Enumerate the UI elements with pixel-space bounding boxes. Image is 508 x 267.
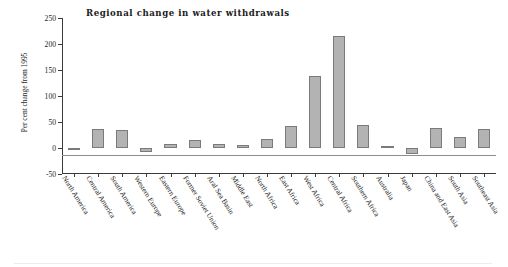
bar [140,148,152,152]
chart-title: Regional change in water withdrawals [86,8,290,18]
y-tick-mark [58,122,62,123]
y-tick-label: 100 [45,92,56,101]
y-axis-title: Per cent change from 1995 [20,18,29,168]
bar [237,145,249,148]
x-tick-label: Middle East [229,174,255,209]
bar [261,139,273,148]
bar [478,129,490,148]
bar [285,126,297,148]
x-tick-label: North Africa [253,174,280,210]
bar [164,144,176,148]
y-tick-label: 150 [45,66,56,75]
bottom-divider [14,263,492,264]
y-tick-label: 250 [45,14,56,23]
bar [454,137,466,148]
y-tick-label: 200 [45,40,56,49]
y-tick-mark [58,148,62,149]
plot-area: 250200150100500-50 [62,18,496,174]
bar [213,144,225,148]
bar [381,146,393,148]
zero-baseline [62,155,496,156]
chart-figure: Regional change in water withdrawals Per… [0,0,508,267]
x-axis-labels: North AmericaCentral AmericaSouth Americ… [62,174,508,267]
x-tick-label: Japan [398,174,414,193]
y-tick-label: 50 [48,118,56,127]
bar [189,140,201,148]
x-tick-label: West Africa [302,174,328,208]
x-tick-label: South Asia [446,174,470,206]
x-tick-label: Australia [374,174,396,201]
bar [333,36,345,148]
bar [430,128,442,148]
y-axis-line [62,18,63,174]
x-tick-label: Southeast Asia [470,174,501,215]
bar [406,148,418,154]
x-tick-label: East Africa [277,174,302,206]
y-tick-mark [58,18,62,19]
bar [68,148,80,150]
y-tick-label: 0 [52,144,56,153]
bar [92,129,104,148]
bar [357,125,369,148]
bar [116,130,128,148]
y-tick-mark [58,70,62,71]
y-tick-mark [58,44,62,45]
y-tick-mark [58,96,62,97]
bar [309,76,321,148]
y-tick-label: -50 [46,170,56,179]
